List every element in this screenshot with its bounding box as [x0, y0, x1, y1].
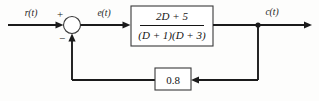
error-signal-label: e(t): [97, 8, 110, 19]
output-signal-label: c(t): [265, 7, 278, 18]
block-diagram-figure: 2D + 5 (D + 1)(D + 3) 0.8 r(t) e(t) c(t)…: [0, 0, 319, 101]
input-signal-label: r(t): [25, 8, 38, 19]
input-wire-group: [8, 21, 64, 28]
block-diagram-canvas: 2D + 5 (D + 1)(D + 3) 0.8 r(t) e(t) c(t)…: [0, 0, 319, 101]
output-arrow-head: [304, 21, 312, 28]
feedback-gain-arrow-head: [191, 76, 199, 83]
feedback-entry-wire-group: [68, 34, 75, 81]
feedback-entry-arrow-head: [68, 34, 75, 42]
transfer-function-denominator: (D + 1)(D + 3): [138, 29, 206, 42]
error-arrow-head: [123, 21, 131, 28]
negative-sign-label: −: [59, 32, 65, 44]
output-wire-group: [213, 21, 312, 28]
transfer-function-numerator: 2D + 5: [156, 10, 188, 22]
positive-sign-label: +: [57, 8, 63, 20]
summing-junction: [64, 17, 81, 34]
input-arrow-head: [56, 21, 64, 28]
feedback-gain-value: 0.8: [166, 74, 180, 86]
error-wire-group: [81, 21, 131, 28]
